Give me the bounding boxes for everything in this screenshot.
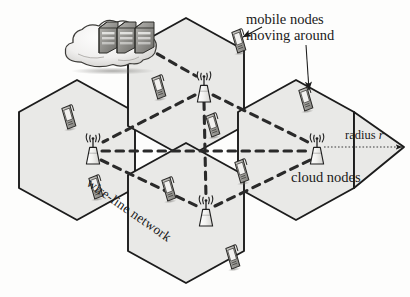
- network-diagram: mobile nodes moving around cloud nodes r…: [0, 0, 410, 297]
- label-radius-prefix: radius: [345, 128, 379, 142]
- label-radius-symbol: r: [379, 128, 384, 142]
- label-mobile-nodes-line2: moving around: [246, 28, 334, 44]
- server-rack-icon: [99, 22, 154, 53]
- label-radius: radius r: [345, 129, 384, 143]
- label-cloud-nodes: cloud nodes: [291, 170, 361, 186]
- arrow-icon-to-phone-8: [306, 45, 309, 90]
- label-mobile-nodes-line1: mobile nodes: [246, 12, 334, 28]
- label-mobile-nodes: mobile nodes moving around: [246, 12, 334, 43]
- diagram-canvas: [0, 0, 410, 297]
- cell-right-outer-edge: [354, 112, 404, 188]
